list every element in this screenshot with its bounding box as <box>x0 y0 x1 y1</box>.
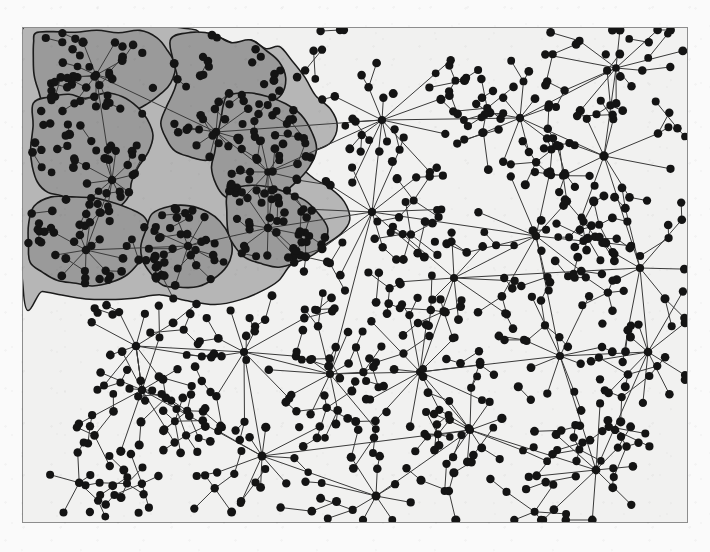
graph-node <box>285 115 294 124</box>
graph-node <box>433 420 442 429</box>
graph-node <box>133 141 141 149</box>
graph-node <box>159 446 168 455</box>
graph-node <box>182 125 191 134</box>
graph-node <box>148 386 156 394</box>
graph-node <box>324 362 333 371</box>
graph-node <box>431 238 439 246</box>
graph-node <box>507 160 515 168</box>
graph-node <box>399 230 407 238</box>
graph-node <box>478 113 486 121</box>
graph-node <box>364 83 373 92</box>
graph-node <box>619 358 627 366</box>
graph-node <box>201 471 209 479</box>
graph-node <box>236 198 244 206</box>
graph-node <box>81 267 89 275</box>
graph-node <box>373 464 382 473</box>
graph-node <box>160 271 169 280</box>
graph-node <box>383 138 391 146</box>
graph-node <box>245 218 253 226</box>
graph-node <box>108 310 117 319</box>
graph-node <box>258 199 266 207</box>
graph-node <box>596 399 604 407</box>
graph-node <box>621 382 630 391</box>
graph-node <box>623 218 631 226</box>
graph-node <box>603 67 611 75</box>
graph-node <box>352 343 360 351</box>
graph-node <box>291 192 299 200</box>
graph-node <box>96 368 105 377</box>
graph-node <box>396 280 405 289</box>
graph-node <box>240 418 248 426</box>
graph-node <box>621 347 630 356</box>
graph-node <box>399 349 407 357</box>
graph-node <box>62 195 71 204</box>
graph-node <box>428 296 436 304</box>
graph-node <box>677 198 685 206</box>
graph-node <box>296 227 305 236</box>
graph-node <box>88 318 96 326</box>
graph-node <box>90 431 99 440</box>
graph-node <box>545 278 554 287</box>
graph-node <box>215 139 223 147</box>
graph-node <box>372 59 381 68</box>
graph-node <box>195 434 203 442</box>
figure-page <box>0 0 710 552</box>
graph-node <box>82 162 90 170</box>
graph-node <box>654 129 663 138</box>
graph-node <box>402 464 410 472</box>
graph-node <box>428 272 436 280</box>
graph-node <box>61 254 70 263</box>
graph-node <box>108 481 117 490</box>
graph-node <box>168 245 176 253</box>
graph-node <box>541 81 550 90</box>
graph-node <box>198 352 206 360</box>
graph-node <box>208 131 217 140</box>
graph-node <box>375 147 384 156</box>
graph-node <box>87 242 95 250</box>
graph-node <box>145 245 153 253</box>
graph-node <box>597 97 605 105</box>
graph-node <box>432 69 440 77</box>
graph-node <box>413 249 422 258</box>
graph-node <box>236 436 245 445</box>
graph-node <box>434 213 442 221</box>
graph-node <box>304 469 311 476</box>
graph-node <box>602 50 610 58</box>
graph-node <box>213 468 221 476</box>
graph-node <box>86 471 94 479</box>
graph-node <box>190 504 198 512</box>
graph-node <box>118 347 127 356</box>
graph-node <box>621 204 630 213</box>
graph-node <box>664 30 672 38</box>
graph-node <box>396 304 404 312</box>
graph-node <box>104 155 113 164</box>
graph-node <box>677 215 686 224</box>
graph-node <box>300 267 308 275</box>
graph-node <box>100 381 108 389</box>
graph-node <box>570 433 578 441</box>
graph-node <box>139 464 147 472</box>
graph-node <box>582 246 591 255</box>
graph-node <box>258 452 267 461</box>
graph-node <box>507 57 515 65</box>
graph-node <box>419 365 427 373</box>
graph-node <box>263 251 271 259</box>
graph-node <box>173 213 182 222</box>
graph-node <box>382 408 391 417</box>
graph-node <box>149 84 157 92</box>
graph-node <box>636 264 644 272</box>
graph-node <box>106 351 115 360</box>
graph-node <box>276 66 284 74</box>
graph-node <box>128 235 136 243</box>
graph-node <box>217 352 225 360</box>
graph-node <box>46 471 54 479</box>
graph-node <box>231 426 239 434</box>
graph-node <box>578 301 586 309</box>
graph-node <box>180 326 188 334</box>
graph-node <box>178 393 187 402</box>
graph-node <box>92 147 100 155</box>
graph-node <box>527 363 536 372</box>
graph-node <box>225 89 234 98</box>
graph-node <box>76 52 84 60</box>
graph-node <box>171 417 179 425</box>
